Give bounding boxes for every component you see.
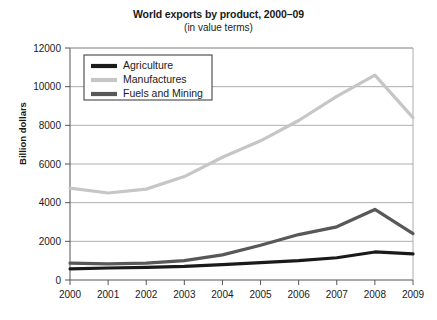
x-tick-label: 2000 xyxy=(59,289,82,300)
legend-label: Manufactures xyxy=(123,73,187,85)
y-tick-label: 4000 xyxy=(39,197,62,208)
x-tick-label: 2006 xyxy=(288,289,311,300)
chart-legend: AgricultureManufacturesFuels and Mining xyxy=(84,55,212,100)
x-tick-label: 2004 xyxy=(211,289,234,300)
chart-container: World exports by product, 2000–09 (in va… xyxy=(0,0,437,320)
x-tick-label: 2008 xyxy=(364,289,387,300)
y-axis-ticks: 020004000600080001000012000 xyxy=(33,43,70,286)
x-tick-label: 2009 xyxy=(402,289,425,300)
y-tick-label: 0 xyxy=(55,275,61,286)
y-tick-label: 10000 xyxy=(33,81,61,92)
chart-plot: 020004000600080001000012000 200020012002… xyxy=(0,0,437,320)
y-tick-label: 2000 xyxy=(39,236,62,247)
legend-label: Fuels and Mining xyxy=(123,87,203,99)
y-tick-label: 12000 xyxy=(33,43,61,54)
x-tick-label: 2002 xyxy=(135,289,158,300)
x-axis-ticks: 2000200120022003200420052006200720082009 xyxy=(59,280,425,300)
y-tick-label: 8000 xyxy=(39,120,62,131)
y-tick-label: 6000 xyxy=(39,159,62,170)
x-tick-label: 2003 xyxy=(173,289,196,300)
series-line xyxy=(70,252,413,269)
series-line xyxy=(70,209,413,264)
x-tick-label: 2005 xyxy=(249,289,272,300)
data-series-group xyxy=(70,75,413,269)
x-tick-label: 2001 xyxy=(97,289,120,300)
legend-label: Agriculture xyxy=(123,59,173,71)
x-tick-label: 2007 xyxy=(326,289,349,300)
